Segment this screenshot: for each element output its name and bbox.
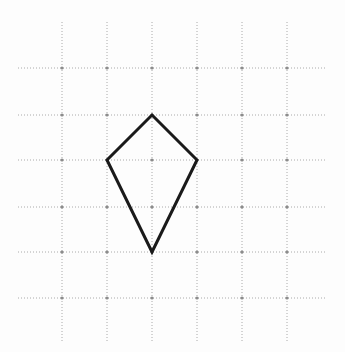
- grid-node-5-0: [285, 66, 288, 69]
- grid-node-3-5: [195, 296, 198, 299]
- grid-node-1-2: [105, 158, 108, 161]
- grid-node-5-2: [285, 158, 288, 161]
- grid-node-0-4: [60, 250, 63, 253]
- grid-node-5-4: [285, 250, 288, 253]
- grid-node-0-5: [60, 296, 63, 299]
- grid-node-1-4: [105, 250, 108, 253]
- grid-node-0-3: [60, 205, 63, 208]
- dotted-grid: [0, 0, 345, 352]
- grid-node-0-0: [60, 66, 63, 69]
- grid-node-3-4: [195, 250, 198, 253]
- grid-node-1-1: [105, 113, 108, 116]
- grid-node-1-3: [105, 205, 108, 208]
- grid-node-4-3: [240, 205, 243, 208]
- grid-node-1-0: [105, 66, 108, 69]
- grid-node-4-0: [240, 66, 243, 69]
- grid-node-5-1: [285, 113, 288, 116]
- grid-node-3-0: [195, 66, 198, 69]
- grid-node-4-1: [240, 113, 243, 116]
- grid-node-3-1: [195, 113, 198, 116]
- grid-node-3-3: [195, 205, 198, 208]
- grid-node-2-0: [150, 66, 153, 69]
- grid-node-5-5: [285, 296, 288, 299]
- grid-node-2-2: [150, 158, 153, 161]
- worksheet-canvas: [0, 0, 345, 352]
- grid-node-0-2: [60, 158, 63, 161]
- grid-node-4-2: [240, 158, 243, 161]
- grid-node-3-2: [195, 158, 198, 161]
- grid-node-2-4: [150, 250, 153, 253]
- grid-node-5-3: [285, 205, 288, 208]
- grid-node-4-5: [240, 296, 243, 299]
- grid-node-1-5: [105, 296, 108, 299]
- grid-node-2-3: [150, 205, 153, 208]
- grid-node-2-1: [150, 113, 153, 116]
- grid-node-0-1: [60, 113, 63, 116]
- grid-node-2-5: [150, 296, 153, 299]
- grid-node-4-4: [240, 250, 243, 253]
